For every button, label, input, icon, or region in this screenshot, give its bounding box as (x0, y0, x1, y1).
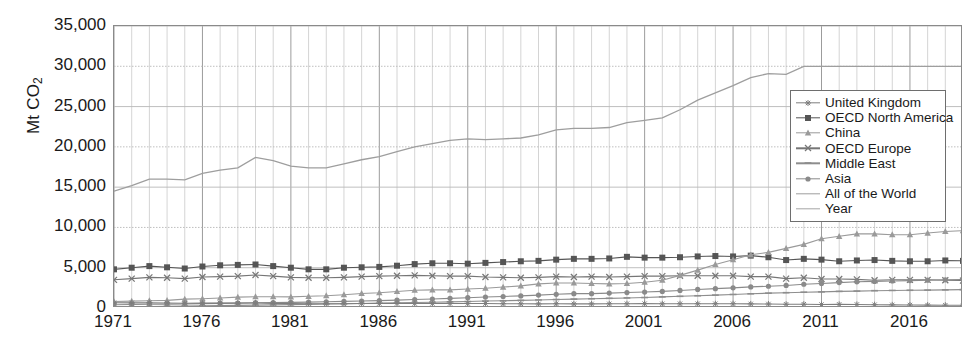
legend-item-oecd-north-america[interactable]: OECD North America (795, 110, 940, 125)
legend-item-all-of-the-world[interactable]: All of the World (795, 186, 940, 201)
legend-item-middle-east[interactable]: Middle East (795, 156, 940, 171)
legend-item-label: Asia (825, 171, 851, 186)
legend-item-united-kingdom[interactable]: United Kingdom (795, 95, 940, 110)
dash-icon (795, 156, 821, 170)
star-icon (795, 96, 821, 110)
line-icon (795, 202, 821, 216)
x-axis-tick-1991: 1991 (448, 312, 486, 332)
x-axis-tick-2011: 2011 (802, 312, 839, 332)
legend-item-label: All of the World (825, 186, 916, 201)
legend-item-label: Middle East (825, 156, 896, 171)
legend-item-year[interactable]: Year (795, 201, 940, 216)
series-oecd-north-america (114, 253, 962, 273)
x-axis-tick-1996: 1996 (536, 312, 574, 332)
legend-item-label: OECD Europe (825, 141, 911, 156)
legend-item-label: OECD North America (825, 110, 953, 125)
square-icon (795, 111, 821, 125)
x-axis-tick-1971: 1971 (94, 312, 132, 332)
chart-legend: United KingdomOECD North AmericaChinaOEC… (790, 90, 946, 222)
y-axis-tick-10000: 10,000 (10, 216, 106, 236)
legend-item-oecd-europe[interactable]: OECD Europe (795, 141, 940, 156)
triangle-icon (795, 126, 821, 140)
legend-item-label: Year (825, 201, 852, 216)
y-axis-tick-5000: 5,000 (10, 257, 106, 277)
legend-item-label: China (825, 125, 860, 140)
legend-item-china[interactable]: China (795, 125, 940, 140)
y-axis-tick-15000: 15,000 (10, 176, 106, 196)
y-axis-tick-20000: 20,000 (10, 136, 106, 156)
line-icon (795, 187, 821, 201)
y-axis-tick-labels: 05,00010,00015,00020,00025,00030,00035,0… (10, 0, 106, 346)
x-axis-tick-2006: 2006 (713, 312, 751, 332)
y-axis-tick-35000: 35,000 (10, 15, 106, 35)
cross-icon (795, 141, 821, 155)
y-axis-tick-25000: 25,000 (10, 96, 106, 116)
y-axis-tick-30000: 30,000 (10, 55, 106, 75)
x-axis-tick-2016: 2016 (890, 312, 928, 332)
co2-emissions-line-chart: Mt CO2 05,00010,00015,00020,00025,00030,… (0, 0, 978, 346)
y-axis-tick-0: 0 (10, 297, 106, 317)
legend-item-label: United Kingdom (825, 95, 921, 110)
x-axis-tick-1986: 1986 (359, 312, 397, 332)
x-axis-tick-1976: 1976 (183, 312, 221, 332)
circle-icon (795, 172, 821, 186)
x-axis-tick-2001: 2001 (625, 312, 663, 332)
legend-item-asia[interactable]: Asia (795, 171, 940, 186)
x-axis-tick-1981: 1981 (271, 312, 309, 332)
